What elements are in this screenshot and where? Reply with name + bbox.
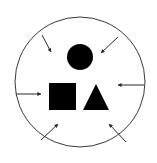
filled-circle-shape (67, 44, 93, 70)
filled-triangle-shape (83, 84, 109, 110)
arrow-top-left-icon (42, 35, 51, 52)
filled-square-shape (49, 83, 76, 110)
boundary-circle (15, 17, 145, 147)
arrow-bottom-left-icon (41, 124, 58, 140)
arrow-top-right-icon (101, 37, 118, 53)
diagram-canvas (0, 0, 157, 163)
